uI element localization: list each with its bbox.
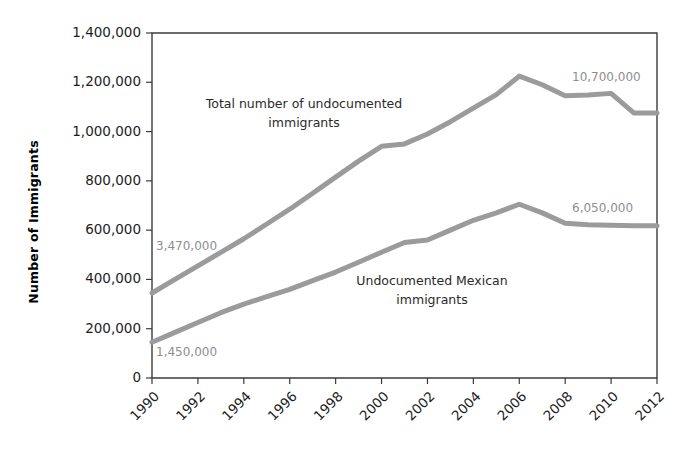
y-tick-label: 1,000,000 xyxy=(72,123,141,139)
x-tick-label: 2004 xyxy=(448,388,484,424)
x-tick-label: 1990 xyxy=(127,388,163,424)
series-label-total-line2: immigrants xyxy=(268,115,339,130)
x-tick-label: 1994 xyxy=(218,388,254,424)
x-tick-label: 1998 xyxy=(310,388,346,424)
x-tick-label: 2012 xyxy=(632,388,668,424)
x-tick-label: 2010 xyxy=(586,388,622,424)
y-tick-label: 400,000 xyxy=(85,270,141,286)
x-tick-label: 2002 xyxy=(402,388,438,424)
series-label-mexican-line2: immigrants xyxy=(396,292,467,307)
x-tick-label: 2008 xyxy=(540,388,576,424)
annotation-total-1990: 3,470,000 xyxy=(156,239,217,253)
x-tick-label: 1996 xyxy=(264,388,300,424)
y-tick-label: 600,000 xyxy=(85,221,141,237)
y-tick-label: 800,000 xyxy=(85,172,141,188)
annotation-total-2012: 10,700,000 xyxy=(572,70,641,84)
annotation-mexican-1990: 1,450,000 xyxy=(156,345,217,359)
y-tick-label: 1,400,000 xyxy=(72,24,141,40)
y-axis-title: Number of Immigrants xyxy=(26,140,41,304)
series-label-total-line1: Total number of undocumented xyxy=(205,96,402,111)
x-tick-label: 1992 xyxy=(173,388,209,424)
y-axis-tick-labels: 0200,000400,000600,000800,0001,000,0001,… xyxy=(72,24,141,385)
series-label-mexican-line1: Undocumented Mexican xyxy=(356,273,507,288)
line-chart: 0200,000400,000600,000800,0001,000,0001,… xyxy=(0,0,695,453)
y-tick-label: 0 xyxy=(132,369,141,385)
x-tick-label: 2006 xyxy=(494,388,530,424)
x-tick-label: 2000 xyxy=(356,388,392,424)
chart-figure: 0200,000400,000600,000800,0001,000,0001,… xyxy=(0,0,695,453)
x-axis-tick-labels: 1990199219941996199820002002200420062008… xyxy=(127,388,668,424)
y-tick-label: 1,200,000 xyxy=(72,73,141,89)
annotation-mexican-2012: 6,050,000 xyxy=(572,201,633,215)
y-tick-label: 200,000 xyxy=(85,320,141,336)
